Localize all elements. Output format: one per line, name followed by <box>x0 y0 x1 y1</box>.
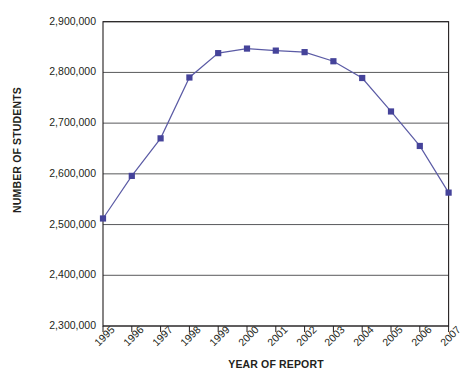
x-axis-tick-label: 2002 <box>293 323 318 348</box>
x-axis-tick-label: 2007 <box>437 323 462 348</box>
x-axis-tick-label: 1995 <box>92 323 117 348</box>
line-chart: NUMBER OF STUDENTS 2,900,0002,800,0002,7… <box>0 0 475 388</box>
x-axis-tick-label: 2001 <box>265 323 290 348</box>
x-axis-title: YEAR OF REPORT <box>103 358 449 370</box>
x-axis-tick-label: 2003 <box>322 323 347 348</box>
x-axis-tick-label: 2004 <box>351 323 376 348</box>
x-axis-tick-label: 1999 <box>207 323 232 348</box>
x-axis-tick-label: 2000 <box>236 323 261 348</box>
x-axis-tick-label: 1998 <box>178 323 203 348</box>
x-axis-tick-label: 1997 <box>149 323 174 348</box>
x-axis-tick-label: 1996 <box>121 323 146 348</box>
x-axis-tick-label: 2006 <box>409 323 434 348</box>
x-axis-tick-label: 2005 <box>380 323 405 348</box>
x-axis-tick-labels: 1995199619971998199920002001200220032004… <box>0 0 475 388</box>
